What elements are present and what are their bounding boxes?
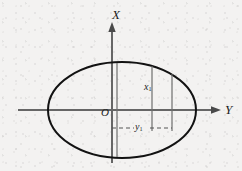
origin-label: O (101, 107, 109, 118)
x1-label: x1 (144, 82, 152, 93)
y-axis-label: Y (225, 103, 232, 116)
y1-label: y1 (135, 122, 143, 133)
y-axis-arrowhead (211, 106, 221, 113)
ellipse-diagram-figure: X Y O x1 y1 (0, 0, 242, 171)
x-axis-label: X (112, 8, 120, 21)
diagram-canvas (0, 0, 242, 171)
y1-label-subscript: 1 (139, 125, 142, 132)
x-axis-group (108, 22, 115, 163)
x1-label-subscript: 1 (148, 85, 151, 92)
x-axis-arrowhead (108, 22, 115, 32)
